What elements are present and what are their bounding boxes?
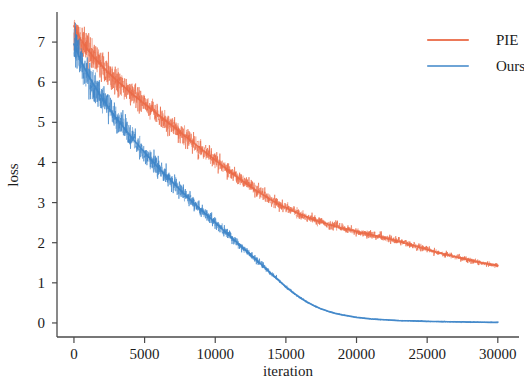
y-tick-label: 2 [38,235,46,251]
x-tick-label: 30000 [479,346,517,362]
x-tick-label: 25000 [408,346,446,362]
legend-label-ours: Ours [496,58,524,74]
y-tick-label: 5 [38,114,46,130]
y-axis-title: loss [5,163,21,187]
x-tick-label: 15000 [267,346,305,362]
figure-canvas: 01234567 050001000015000200002500030000 … [0,0,524,382]
legend-label-pie: PIE [496,32,519,48]
x-tick-label: 5000 [130,346,160,362]
x-tick-label: 20000 [338,346,376,362]
y-tick-label: 6 [38,74,46,90]
x-tick-label: 10000 [196,346,234,362]
x-axis-title: iteration [263,363,313,379]
loss-curve-chart: 01234567 050001000015000200002500030000 … [0,0,524,382]
y-tick-label: 1 [38,275,46,291]
y-tick-label: 4 [38,154,46,170]
x-tick-label: 0 [70,346,78,362]
y-tick-label: 0 [38,315,46,331]
y-tick-label: 7 [38,34,46,50]
y-tick-label: 3 [38,195,46,211]
